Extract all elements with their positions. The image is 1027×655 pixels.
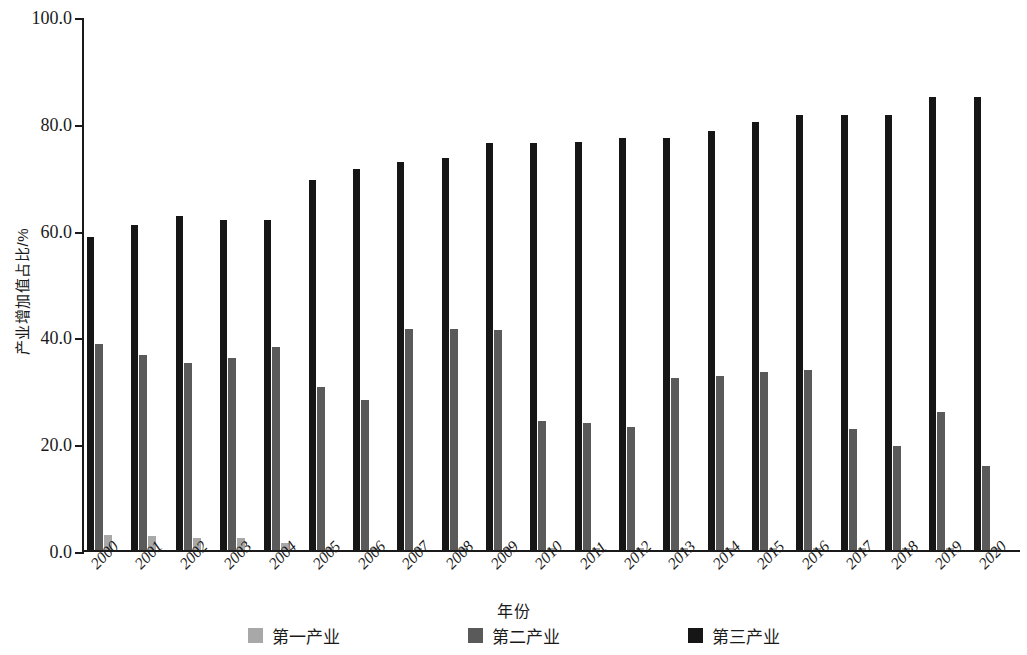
bar-第二产业-2002: [184, 363, 192, 550]
y-tick-label: 80.0: [10, 116, 72, 134]
bar-第三产业-2017: [841, 115, 848, 550]
x-label-cell: 2019: [929, 556, 973, 604]
legend-swatch-icon: [248, 628, 263, 643]
bar-第三产业-2004: [264, 220, 271, 550]
x-label-cell: 2000: [85, 556, 129, 604]
bar-第二产业-2007: [405, 329, 413, 550]
bar-第二产业-2004: [272, 347, 280, 550]
bar-第二产业-2020: [982, 466, 990, 550]
bar-group: [131, 18, 175, 550]
bar-第三产业-2009: [486, 143, 493, 550]
y-tick-label: 60.0: [10, 223, 72, 241]
y-tick-mark: [75, 125, 84, 127]
x-label-cell: 2008: [440, 556, 484, 604]
bar-第二产业-2017: [849, 429, 857, 550]
bar-group: [708, 18, 752, 550]
legend-item: 第三产业: [688, 623, 780, 648]
bar-第三产业-2006: [353, 169, 360, 550]
bar-第二产业-2014: [716, 376, 724, 550]
bar-第二产业-2006: [361, 400, 369, 550]
bar-第三产业-2003: [220, 220, 227, 550]
bar-第二产业-2015: [760, 372, 768, 550]
y-tick-mark: [75, 18, 84, 20]
x-axis-title: 年份: [0, 598, 1027, 622]
bar-第三产业-2016: [796, 115, 803, 550]
x-axis-tick-labels: 2000200120022003200420052006200720082009…: [82, 556, 1020, 604]
x-label-cell: 2014: [707, 556, 751, 604]
bar-第二产业-2000: [95, 344, 103, 550]
legend-label: 第三产业: [712, 623, 780, 648]
x-label-cell: 2018: [885, 556, 929, 604]
x-label-cell: 2001: [129, 556, 173, 604]
bar-第二产业-2016: [804, 370, 812, 550]
bar-第二产业-2003: [228, 358, 236, 550]
x-label-cell: 2004: [263, 556, 307, 604]
bar-第二产业-2009: [494, 330, 502, 550]
bar-第二产业-2010: [538, 421, 546, 550]
bar-第二产业-2019: [937, 412, 945, 550]
x-label-cell: 2013: [662, 556, 706, 604]
legend-swatch-icon: [688, 628, 703, 643]
y-tick-label: 100.0: [10, 9, 72, 27]
bar-group: [929, 18, 973, 550]
chart-legend: 第一产业第二产业第三产业: [0, 623, 1027, 648]
bar-group: [486, 18, 530, 550]
x-label-cell: 2007: [396, 556, 440, 604]
bar-group: [796, 18, 840, 550]
x-label-cell: 2011: [574, 556, 618, 604]
bar-第三产业-2007: [397, 162, 404, 550]
x-label-cell: 2020: [973, 556, 1017, 604]
bar-group: [752, 18, 796, 550]
x-label-cell: 2003: [218, 556, 262, 604]
x-label-cell: 2010: [529, 556, 573, 604]
bar-group: [530, 18, 574, 550]
bar-groups: [84, 18, 1020, 550]
y-tick-mark: [75, 232, 84, 234]
bar-group: [309, 18, 353, 550]
bar-第二产业-2001: [139, 355, 147, 550]
bar-第三产业-2013: [663, 138, 670, 550]
bar-group: [575, 18, 619, 550]
bar-第二产业-2008: [450, 329, 458, 550]
bar-chart-figure: 产业增加值占比/% 0.020.040.060.080.0100.0 20002…: [0, 0, 1027, 655]
bar-第三产业-2001: [131, 225, 138, 550]
bar-group: [87, 18, 131, 550]
bar-group: [353, 18, 397, 550]
x-label-cell: 2009: [485, 556, 529, 604]
bar-group: [176, 18, 220, 550]
bar-第三产业-2002: [176, 216, 183, 550]
y-tick-mark: [75, 338, 84, 340]
y-tick-mark: [75, 445, 84, 447]
legend-item: 第二产业: [468, 623, 560, 648]
bar-group: [397, 18, 441, 550]
bar-第三产业-2018: [885, 115, 892, 550]
bar-第三产业-2000: [87, 237, 94, 550]
bar-第二产业-2005: [317, 387, 325, 550]
bar-第二产业-2011: [583, 423, 591, 550]
x-label-cell: 2016: [796, 556, 840, 604]
x-label-cell: 2015: [751, 556, 795, 604]
bar-group: [663, 18, 707, 550]
legend-label: 第二产业: [492, 623, 560, 648]
y-tick-label: 20.0: [10, 436, 72, 454]
x-label-cell: 2006: [352, 556, 396, 604]
bar-第二产业-2013: [671, 378, 679, 550]
bar-group: [442, 18, 486, 550]
bar-第二产业-2012: [627, 427, 635, 550]
y-tick-label: 40.0: [10, 329, 72, 347]
legend-swatch-icon: [468, 628, 483, 643]
legend-item: 第一产业: [248, 623, 340, 648]
bar-group: [841, 18, 885, 550]
bar-group: [220, 18, 264, 550]
x-label-cell: 2005: [307, 556, 351, 604]
bar-group: [885, 18, 929, 550]
bar-第三产业-2014: [708, 131, 715, 550]
y-tick-label: 0.0: [10, 543, 72, 561]
y-axis-tick-labels: 0.020.040.060.080.0100.0: [0, 0, 72, 655]
x-label-cell: 2012: [618, 556, 662, 604]
plot-area: [82, 18, 1020, 552]
bar-第三产业-2010: [530, 143, 537, 550]
bar-第三产业-2008: [442, 158, 449, 550]
legend-label: 第一产业: [272, 623, 340, 648]
bar-第二产业-2018: [893, 446, 901, 550]
